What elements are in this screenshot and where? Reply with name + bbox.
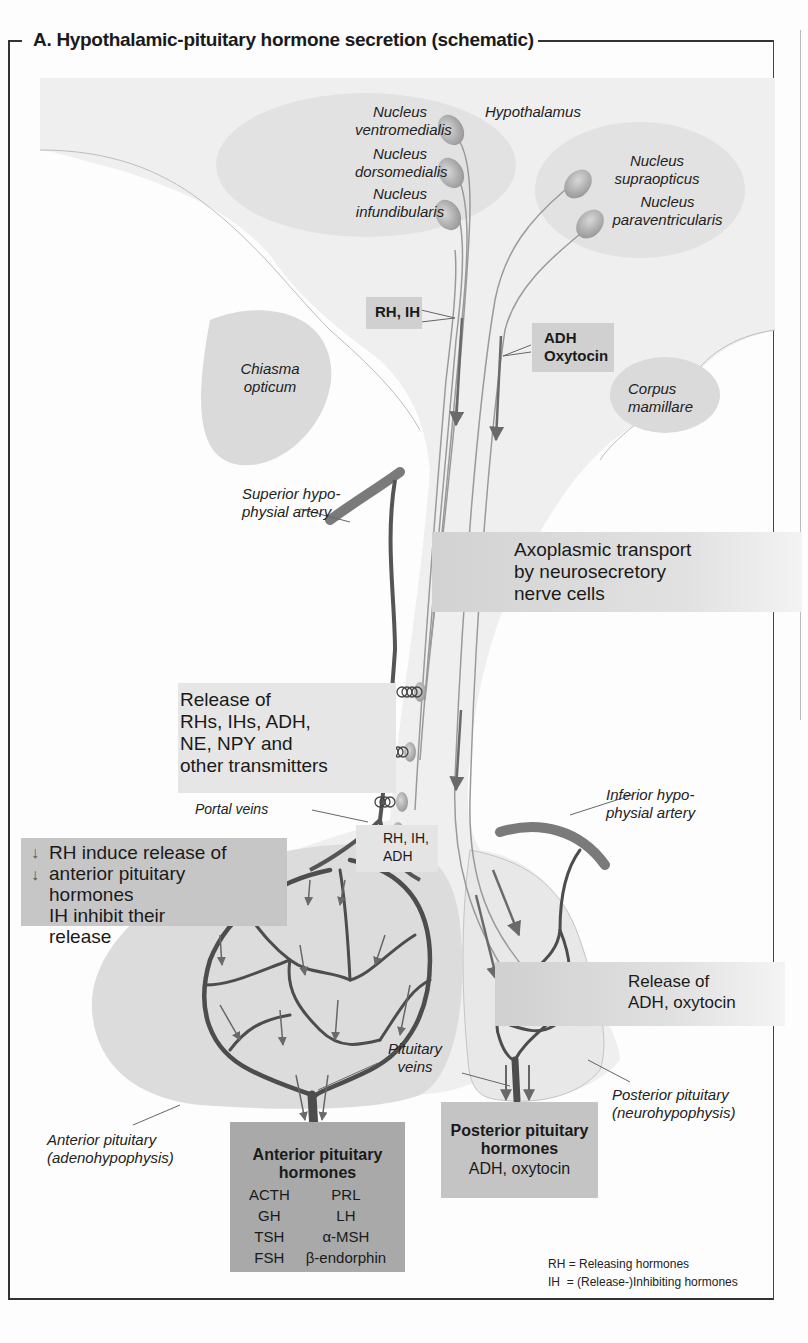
- release-adh-callout: Release ofADH, oxytocin: [495, 962, 785, 1026]
- down-arrow-icon: ↓: [31, 866, 39, 884]
- legend-ih: IH = (Release-)Inhibiting hormones: [548, 1273, 738, 1291]
- inferior-hypophysial-artery: [500, 827, 605, 865]
- table-row: TSHα-MSH: [241, 1226, 394, 1247]
- legend-rh: RH = Releasing hormones: [548, 1255, 738, 1273]
- pituitary-veins-label: Pituitaryveins: [375, 1040, 455, 1076]
- rh-ih-adh-callout: RH, IH,ADH: [356, 825, 438, 872]
- posterior-hormones-header: Posterior pituitaryhormones: [441, 1122, 598, 1158]
- hypothalamus-label: Hypothalamus: [485, 103, 581, 121]
- release-transmitters-callout: Release ofRHs, IHs, ADH,NE, NPY andother…: [178, 683, 396, 793]
- inferior-artery-label: Inferior hypo-physial artery: [606, 786, 695, 822]
- portal-vessel: [310, 480, 395, 870]
- posterior-hormones-value: ADH, oxytocin: [441, 1158, 598, 1180]
- posterior-pituitary-label: Posterior pituitary(neurohypophysis): [612, 1086, 735, 1122]
- adh-oxytocin-callout: ADHOxytocin: [532, 323, 614, 372]
- nucleus-paraventricularis-label: Nucleusparaventricularis: [610, 193, 725, 229]
- table-row: ACTHPRL: [241, 1184, 394, 1205]
- axoplasmic-transport-callout: Axoplasmic transportby neurosecretoryner…: [432, 532, 802, 612]
- anterior-hormones-box: Anterior pituitaryhormones ACTHPRL GHLH …: [230, 1122, 405, 1272]
- nucleus-ventromedialis-label: Nucleusventromedialis: [355, 103, 445, 139]
- anterior-hormones-header: Anterior pituitaryhormones: [230, 1146, 405, 1182]
- nucleus-dorsomedialis-label: Nucleusdorsomedialis: [355, 145, 445, 181]
- table-row: GHLH: [241, 1205, 394, 1226]
- abbreviation-legend: RH = Releasing hormones IH = (Release-)I…: [548, 1255, 738, 1291]
- portal-veins-label: Portal veins: [195, 800, 268, 818]
- anterior-hormones-table: ACTHPRL GHLH TSHα-MSH FSHβ-endorphin: [241, 1184, 394, 1268]
- table-row: FSHβ-endorphin: [241, 1247, 394, 1268]
- down-arrow-icon: ↓: [31, 844, 39, 862]
- superior-artery-label: Superior hypo-physial artery: [242, 485, 340, 521]
- nucleus-infundibularis-label: Nucleusinfundibularis: [355, 185, 445, 221]
- nucleus-supraopticus-label: Nucleussupraopticus: [612, 152, 702, 188]
- anterior-pituitary-label: Anterior pituitary(adenohypophysis): [47, 1131, 174, 1167]
- rh-ih-callout: RH, IH: [366, 297, 422, 329]
- rh-induce-callout: RH induce release ofanterior pituitaryho…: [21, 838, 287, 926]
- chiasma-opticum-label: Chiasmaopticum: [225, 360, 315, 396]
- posterior-hormones-box: Posterior pituitaryhormones ADH, oxytoci…: [441, 1102, 598, 1198]
- corpus-mamillare-label: Corpusmamillare: [628, 380, 693, 416]
